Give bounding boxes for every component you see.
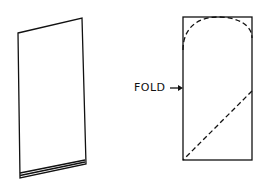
- fold-edge-line-2: [20, 162, 85, 176]
- paper-rectangle: [183, 17, 252, 160]
- dashed-diagonal: [183, 91, 252, 160]
- fold-label: FOLD: [134, 81, 166, 95]
- right-arrow-icon: [178, 85, 183, 91]
- folded-sheet: [18, 18, 86, 178]
- diagram-canvas: [0, 0, 264, 182]
- dashed-arch: [183, 17, 252, 50]
- folded-sheet-outline: [18, 18, 86, 178]
- cut-pattern: [170, 17, 252, 160]
